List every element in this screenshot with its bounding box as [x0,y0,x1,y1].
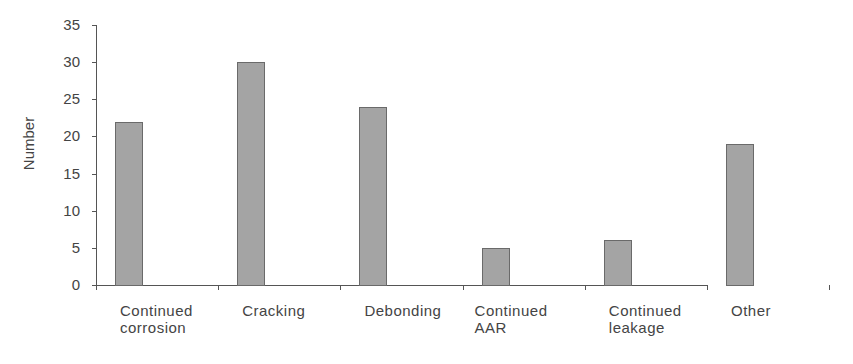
y-tick-label: 30 [50,53,80,70]
x-tick-mark [829,285,830,290]
bar [237,62,265,286]
x-tick-label: Cracking [242,302,305,319]
bar [604,240,632,286]
x-tick-mark [463,285,464,290]
bar [726,144,754,286]
y-tick-label: 20 [50,127,80,144]
y-tick-label: 10 [50,202,80,219]
y-tick-label: 25 [50,90,80,107]
x-tick-mark [340,285,341,290]
x-tick-label: Debonding [364,302,441,319]
x-tick-mark [585,285,586,290]
bar [482,248,510,286]
x-tick-mark [218,285,219,290]
y-tick-label: 0 [50,276,80,293]
x-tick-mark [707,285,708,290]
x-tick-label: Continued leakage [609,302,682,336]
y-axis-line [96,25,97,286]
x-tick-mark [96,285,97,290]
y-tick-label: 15 [50,165,80,182]
y-tick-label: 35 [50,16,80,33]
x-tick-label: Continued AAR [475,302,548,336]
y-tick-label: 5 [50,239,80,256]
bar-chart: Number 05101520253035 Continued corrosio… [0,0,853,364]
y-axis-label: Number [20,114,37,174]
x-tick-label: Continued corrosion [120,302,193,336]
bar [115,122,143,286]
bar [359,107,387,286]
x-tick-label: Other [731,302,771,319]
